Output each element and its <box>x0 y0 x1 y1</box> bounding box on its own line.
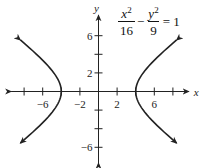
equation-label: x2 16 − y2 9 = 1 <box>118 6 182 37</box>
y-axis-label: y <box>93 2 99 14</box>
x-tick-label: 2 <box>114 98 120 110</box>
y-tick-label: −6 <box>81 141 93 153</box>
minus-operator: − <box>135 14 146 30</box>
axes <box>11 15 189 163</box>
fraction-x: x2 16 <box>118 6 135 37</box>
x-tick-label: −6 <box>37 98 49 110</box>
x-tick-label: 6 <box>152 98 158 110</box>
fraction-y: y2 9 <box>146 6 160 37</box>
y-tick-label: 6 <box>87 30 93 42</box>
x-tick-label: −2 <box>74 98 86 110</box>
equals-rhs: = 1 <box>161 14 182 30</box>
x-axis-label: x <box>193 86 199 98</box>
y-tick-label: 2 <box>87 67 93 79</box>
